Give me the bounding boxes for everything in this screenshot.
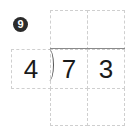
dividend-digit: 3 [88, 50, 124, 88]
work-cell-1[interactable] [50, 88, 88, 126]
problem-number-badge: 9 [13, 17, 28, 32]
dividend-digit: 7 [51, 50, 87, 88]
work-cell-2[interactable] [87, 88, 125, 126]
dividend-cell-1: 7 [50, 49, 88, 89]
quotient-cell-2[interactable] [87, 10, 125, 50]
quotient-cell-1[interactable] [50, 10, 88, 50]
division-bracket [44, 49, 54, 81]
dividend-cell-2: 3 [87, 49, 125, 89]
division-bar [50, 48, 125, 49]
